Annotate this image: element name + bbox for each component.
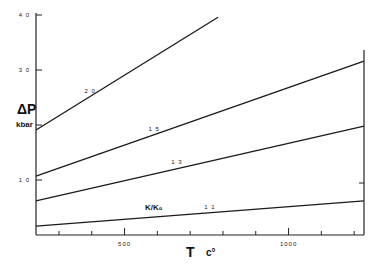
axes: [36, 13, 364, 235]
series-label: 1 1: [204, 204, 215, 210]
chart: 5001000 1 03 04 0 2 01 51 31 1 ΔP kbar T…: [0, 0, 373, 264]
x-axis-unit: c°: [206, 247, 216, 258]
y-tick-label: 3 0: [19, 67, 30, 73]
series-label: 1 5: [148, 126, 159, 132]
x-ticks: 5001000: [59, 228, 354, 247]
series-label: 2 0: [84, 88, 95, 94]
series-line-1-5: [36, 61, 364, 176]
series-line-2-0: [36, 17, 218, 130]
y-tick-label: 1 0: [19, 177, 30, 183]
series-labels: 2 01 51 31 1: [84, 88, 215, 211]
y-axis-unit: kbar: [16, 120, 33, 129]
series-line-1-1: [36, 201, 364, 226]
x-tick-label: 1000: [280, 241, 297, 247]
y-ticks: 1 03 04 0: [19, 12, 364, 183]
series-line-1-3: [36, 126, 364, 201]
y-axis-label: ΔP: [17, 101, 36, 117]
series-label: 1 3: [171, 159, 182, 165]
x-axis-label: T: [186, 244, 195, 260]
x-tick-label: 500: [118, 241, 131, 247]
parameter-label: K/K₀: [145, 203, 163, 212]
series-lines: [36, 17, 364, 226]
y-tick-label: 4 0: [19, 12, 30, 18]
